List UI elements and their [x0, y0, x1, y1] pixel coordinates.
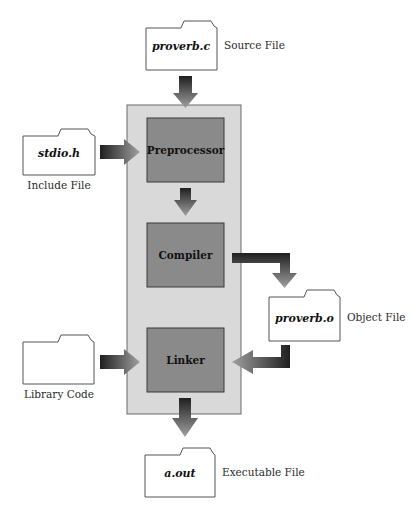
file-source-caption: Source File	[224, 39, 285, 51]
stage-compiler: Compiler	[147, 223, 224, 287]
arrow-elbow-icon	[232, 253, 297, 288]
file-include-caption: Include File	[27, 179, 90, 191]
file-object-caption: Object File	[347, 311, 405, 323]
file-executable: a.out Executable File	[145, 448, 305, 497]
stage-preprocessor-label: Preprocessor	[147, 144, 225, 156]
file-object-name: proverb.o	[275, 312, 334, 325]
file-executable-caption: Executable File	[222, 466, 305, 478]
stage-linker: Linker	[147, 328, 224, 392]
stage-preprocessor: Preprocessor	[147, 118, 225, 182]
file-library: Library Code	[23, 335, 94, 400]
folder-icon	[23, 335, 94, 384]
file-source: proverb.c Source File	[146, 21, 285, 70]
stage-compiler-label: Compiler	[158, 249, 212, 261]
file-include: stdio.h Include File	[23, 129, 95, 191]
arrow-down-icon	[173, 76, 198, 108]
file-executable-name: a.out	[164, 467, 195, 480]
file-source-name: proverb.c	[152, 40, 211, 53]
file-object: proverb.o Object File	[269, 290, 405, 341]
stage-linker-label: Linker	[166, 354, 205, 366]
file-include-name: stdio.h	[38, 147, 80, 160]
file-library-caption: Library Code	[24, 388, 94, 400]
compilation-diagram: Preprocessor Compiler Linker proverb.c S…	[0, 0, 412, 512]
